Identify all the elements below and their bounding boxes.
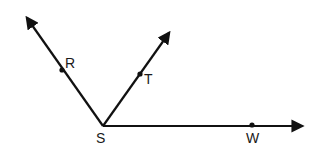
point-t-dot — [137, 71, 142, 76]
label-s-vertex: S — [96, 130, 105, 146]
geometry-diagram: R T W S — [0, 0, 326, 154]
ray-sr — [27, 18, 103, 126]
label-w: W — [246, 130, 260, 146]
point-r-dot — [59, 67, 64, 72]
label-t: T — [144, 71, 153, 87]
label-r: R — [65, 55, 75, 71]
ray-st — [103, 33, 169, 126]
point-w-dot — [249, 122, 254, 127]
